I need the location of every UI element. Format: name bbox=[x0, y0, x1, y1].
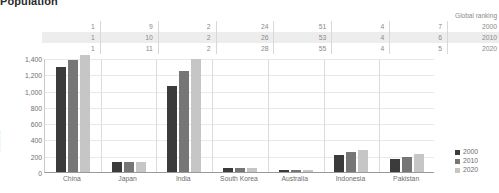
y-axis-tick-labels: 02004006008001,0001,2001,400 bbox=[14, 57, 42, 173]
legend-swatch-icon-2000 bbox=[455, 150, 460, 155]
rank-cell-japan-2010: 10 bbox=[100, 32, 158, 43]
x-axis-tick-label-japan: Japan bbox=[118, 175, 137, 182]
rank-row-year-2000: 2000 bbox=[447, 21, 499, 32]
rank-row-year-2020: 2020 bbox=[447, 43, 499, 54]
rank-cell-india-2000: 2 bbox=[158, 21, 216, 32]
plot-area bbox=[44, 59, 434, 173]
rank-cell-indonesia-2020: 4 bbox=[331, 43, 389, 54]
bar-indonesia-2000[interactable] bbox=[334, 155, 344, 173]
bar-china-2020[interactable] bbox=[80, 55, 90, 172]
bar-group-south-korea bbox=[212, 59, 268, 172]
bar-south-korea-2020[interactable] bbox=[247, 168, 257, 172]
x-axis-tick-label-indonesia: Indonesia bbox=[336, 175, 365, 182]
chart-legend: 2000 2010 2020 bbox=[455, 148, 499, 175]
y-axis-tick-label: 600 bbox=[31, 121, 42, 128]
y-axis-tick-label: 1,200 bbox=[25, 72, 42, 79]
x-axis-tick-label-china: China bbox=[63, 175, 81, 182]
bar-australia-2020[interactable] bbox=[303, 170, 313, 172]
global-ranking-table: Global ranking 1 9 2 24 51 4 7 2000 1 10… bbox=[42, 11, 499, 57]
legend-label-2020: 2020 bbox=[463, 166, 478, 174]
rank-cell-pakistan-2010: 6 bbox=[389, 32, 447, 43]
legend-swatch-icon-2010 bbox=[455, 159, 460, 164]
table-row: 1 11 2 28 55 4 5 2020 bbox=[42, 43, 499, 54]
legend-swatch-icon-2020 bbox=[455, 168, 460, 173]
x-axis-tick-labels: ChinaJapanIndiaSouth KoreaAustraliaIndon… bbox=[44, 175, 434, 191]
global-ranking-header: Global ranking bbox=[455, 11, 497, 20]
rank-cell-australia-2020: 55 bbox=[273, 43, 331, 54]
table-row: 1 10 2 26 53 4 6 2010 bbox=[42, 32, 499, 43]
table-row: 1 9 2 24 51 4 7 2000 bbox=[42, 21, 499, 32]
x-axis-tick-label-australia: Australia bbox=[281, 175, 307, 182]
bar-india-2010[interactable] bbox=[179, 71, 189, 172]
rank-cell-indonesia-2010: 4 bbox=[331, 32, 389, 43]
legend-item-2020[interactable]: 2020 bbox=[455, 166, 499, 174]
legend-label-2010: 2010 bbox=[463, 157, 478, 165]
bar-pakistan-2000[interactable] bbox=[390, 159, 400, 172]
bar-group-indonesia bbox=[324, 59, 380, 172]
population-chart-figure: Population Global ranking 1 9 2 24 51 4 … bbox=[0, 0, 499, 193]
rank-cell-china-2020: 1 bbox=[42, 43, 100, 54]
rank-cell-australia-2010: 53 bbox=[273, 32, 331, 43]
rank-cell-japan-2000: 9 bbox=[100, 21, 158, 32]
rank-cell-india-2010: 2 bbox=[158, 32, 216, 43]
bar-australia-2010[interactable] bbox=[291, 170, 301, 172]
rank-cell-china-2000: 1 bbox=[42, 21, 100, 32]
rank-cell-south-korea-2020: 28 bbox=[216, 43, 274, 54]
y-axis-tick-label: 1,000 bbox=[25, 88, 42, 95]
bar-group-pakistan bbox=[379, 59, 435, 172]
legend-label-2000: 2000 bbox=[463, 148, 478, 156]
bar-group-china bbox=[45, 59, 101, 172]
bar-japan-2020[interactable] bbox=[136, 162, 146, 172]
rank-cell-indonesia-2000: 4 bbox=[331, 21, 389, 32]
bar-south-korea-2010[interactable] bbox=[235, 168, 245, 172]
rank-cell-south-korea-2010: 26 bbox=[216, 32, 274, 43]
bar-australia-2000[interactable] bbox=[279, 170, 289, 172]
bar-pakistan-2010[interactable] bbox=[402, 157, 412, 172]
y-axis-tick-label: 1,400 bbox=[25, 56, 42, 63]
bar-china-2010[interactable] bbox=[68, 60, 78, 172]
y-axis-title: Millions bbox=[0, 130, 1, 152]
bar-group-japan bbox=[101, 59, 157, 172]
rank-cell-pakistan-2020: 5 bbox=[389, 43, 447, 54]
bar-china-2000[interactable] bbox=[56, 67, 66, 172]
rank-cell-pakistan-2000: 7 bbox=[389, 21, 447, 32]
y-axis-tick-label: 400 bbox=[31, 137, 42, 144]
rank-cell-australia-2000: 51 bbox=[273, 21, 331, 32]
rank-cell-india-2020: 2 bbox=[158, 43, 216, 54]
rank-row-year-2010: 2010 bbox=[447, 32, 499, 43]
bar-indonesia-2010[interactable] bbox=[346, 152, 356, 172]
rank-cell-south-korea-2000: 24 bbox=[216, 21, 274, 32]
bar-south-korea-2000[interactable] bbox=[223, 168, 233, 172]
y-axis-tick-label: 800 bbox=[31, 104, 42, 111]
bar-japan-2010[interactable] bbox=[124, 162, 134, 172]
bar-indonesia-2020[interactable] bbox=[358, 150, 368, 172]
legend-item-2010[interactable]: 2010 bbox=[455, 157, 499, 165]
x-axis-tick-label-pakistan: Pakistan bbox=[393, 175, 419, 182]
x-axis-tick-label-india: India bbox=[176, 175, 191, 182]
bar-japan-2000[interactable] bbox=[112, 162, 122, 172]
legend-item-2000[interactable]: 2000 bbox=[455, 148, 499, 156]
y-axis-tick-label: 0 bbox=[38, 170, 42, 177]
rank-cell-china-2010: 1 bbox=[42, 32, 100, 43]
page-title: Population bbox=[0, 0, 58, 7]
bar-group-australia bbox=[268, 59, 324, 172]
bar-india-2000[interactable] bbox=[167, 86, 177, 172]
bar-pakistan-2020[interactable] bbox=[414, 154, 424, 172]
y-axis-tick-label: 200 bbox=[31, 153, 42, 160]
bar-chart: Millions 02004006008001,0001,2001,400 Ch… bbox=[0, 57, 499, 193]
rank-cell-japan-2020: 11 bbox=[100, 43, 158, 54]
x-axis-tick-label-south-korea: South Korea bbox=[220, 175, 258, 182]
bar-india-2020[interactable] bbox=[191, 59, 201, 172]
bar-group-india bbox=[156, 59, 212, 172]
